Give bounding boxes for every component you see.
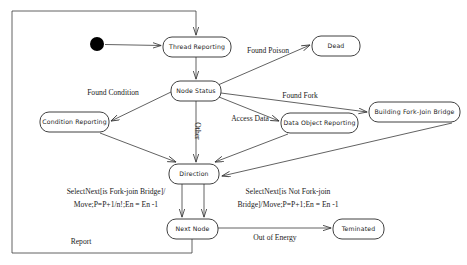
transition-init-to-thread-reporting xyxy=(105,45,161,46)
state-thread-reporting-label: Thread Reporting xyxy=(168,43,225,51)
edge-label-found-fork: Found Fork xyxy=(282,91,318,100)
state-dead[interactable]: Dead xyxy=(312,36,360,56)
state-diagram-canvas: Thread Reporting Dead Node Status Condit… xyxy=(0,0,467,265)
transition-data-object-reporting-to-direction xyxy=(215,134,288,162)
edge-label-select-next-fork-line1: SelectNext[is Fork-join Bridge]/ xyxy=(67,187,167,196)
state-teminated[interactable]: Teminated xyxy=(333,219,384,239)
edge-label-select-next-notfork-line2: Bridge]/Move;P=P+1;En = En -1 xyxy=(237,200,338,209)
edge-label-report: Report xyxy=(71,237,93,246)
state-diagram-svg: Thread Reporting Dead Node Status Condit… xyxy=(0,0,467,265)
state-node-status-label: Node Status xyxy=(176,87,215,94)
transition-condition-reporting-to-direction xyxy=(100,133,176,162)
state-building-fork-join-bridge[interactable]: Building Fork-Join Bridge xyxy=(369,102,460,122)
state-dead-label: Dead xyxy=(328,42,345,49)
state-building-fork-join-bridge-label: Building Fork-Join Bridge xyxy=(374,108,454,116)
edge-label-out-of-energy: Out of Energy xyxy=(253,233,297,242)
state-next-node[interactable]: Next Node xyxy=(167,219,218,239)
initial-state-dot xyxy=(90,37,104,51)
state-next-node-label: Next Node xyxy=(176,225,210,232)
state-teminated-label: Teminated xyxy=(341,225,376,232)
state-data-object-reporting[interactable]: Data Object Reporting xyxy=(281,113,358,133)
state-direction[interactable]: Direction xyxy=(169,164,219,184)
edge-label-found-poison: Found Poison xyxy=(247,46,289,55)
edge-label-select-next-fork-line2: Move;P=P+1/n!;En = En -1 xyxy=(74,200,159,209)
state-direction-label: Direction xyxy=(179,170,208,177)
edge-label-select-next-notfork-line1: SelectNext[is Not Fork-join xyxy=(246,187,331,196)
state-condition-reporting[interactable]: Condition Reporting xyxy=(40,112,109,132)
edge-label-access-data: Access Data xyxy=(231,114,269,123)
state-node-status[interactable]: Node Status xyxy=(171,81,221,101)
edge-label-other: Other xyxy=(193,122,202,140)
edge-labels-layer: Found Poison Found Condition Found Fork … xyxy=(67,46,339,246)
state-condition-reporting-label: Condition Reporting xyxy=(42,118,106,126)
edge-label-found-condition: Found Condition xyxy=(87,88,139,97)
state-data-object-reporting-label: Data Object Reporting xyxy=(283,119,355,127)
state-thread-reporting[interactable]: Thread Reporting xyxy=(163,37,231,57)
